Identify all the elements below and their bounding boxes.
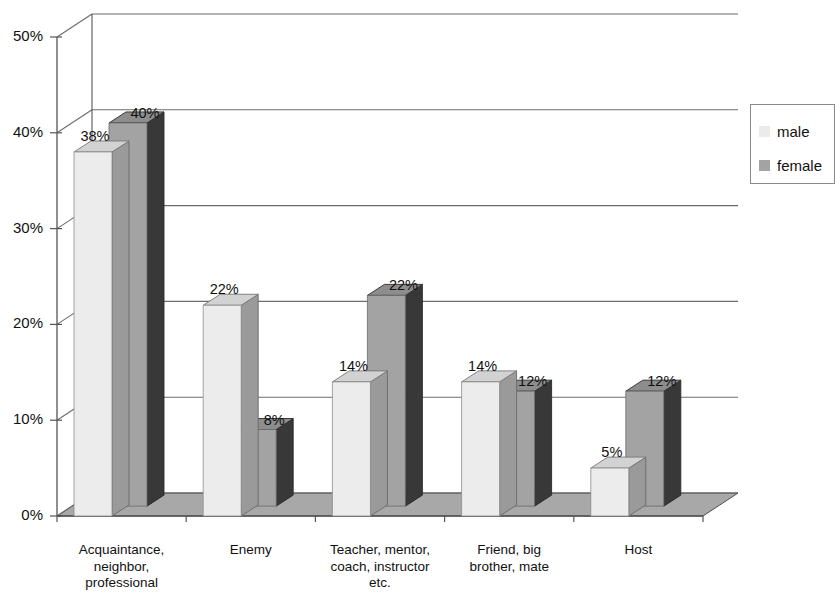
legend-swatch-icon <box>759 160 770 171</box>
legend: malefemale <box>750 104 835 184</box>
bar-value-label: 40% <box>115 105 175 121</box>
bar-value-label: 12% <box>503 373 563 389</box>
legend-item-male: male <box>759 123 810 140</box>
legend-item-female: female <box>759 157 822 174</box>
legend-swatch-icon <box>759 126 770 137</box>
bar-value-labels: 40%38%8%22%22%14%12%14%12%5% <box>0 0 835 595</box>
bar-value-label: 38% <box>65 128 125 144</box>
legend-label: male <box>777 123 810 140</box>
bar-value-label: 5% <box>582 444 642 460</box>
bar-chart: 0%10%20%30%40%50% Acquaintance, neighbor… <box>0 0 835 595</box>
bar-value-label: 8% <box>244 412 304 428</box>
bar-value-label: 12% <box>632 373 692 389</box>
legend-label: female <box>777 157 822 174</box>
bar-value-label: 14% <box>323 358 383 374</box>
bar-value-label: 22% <box>373 277 433 293</box>
bar-value-label: 22% <box>194 281 254 297</box>
bar-value-label: 14% <box>453 358 513 374</box>
